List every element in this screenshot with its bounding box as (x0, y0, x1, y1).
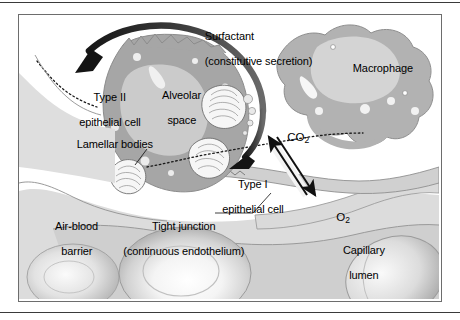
macrophage-vacuole (387, 97, 395, 105)
label-o2: O2 (317, 199, 350, 235)
bottom-divider-rule (0, 312, 460, 313)
top-divider-rule (0, 2, 460, 3)
label-surfactant-line2: (constitutive secretion) (205, 55, 313, 67)
lamellar-body (110, 160, 146, 194)
label-macrophage: Macrophage (329, 49, 419, 87)
figure-page: Surfactant (constitutive secretion) Macr… (0, 0, 460, 320)
macrophage-vacuole (411, 107, 419, 115)
label-type1-line1: Type I (238, 178, 267, 190)
label-air-blood-barrier: Air-blood barrier (25, 207, 111, 270)
label-co2: CO2 (268, 119, 309, 155)
macrophage-vacuole (360, 104, 370, 114)
label-air-blood-line1: Air-blood (55, 220, 98, 232)
label-tight-junction-line1: Tight junction (152, 220, 216, 232)
label-o2-text: O (336, 211, 345, 223)
label-tight-junction: Tight junction (continuous endothelium) (101, 207, 249, 270)
label-lamellar-bodies-text: Lamellar bodies (77, 138, 153, 150)
diagram-frame: Surfactant (constitutive secretion) Macr… (18, 14, 442, 302)
label-co2-text: CO (287, 131, 304, 143)
secretory-vesicle (243, 131, 248, 136)
label-surfactant-line1: Surfactant (205, 30, 254, 42)
secretory-vesicle (244, 95, 253, 104)
label-lamellar-bodies: Lamellar bodies (59, 125, 153, 163)
secretory-vesicle (247, 120, 253, 126)
label-capillary-line1: Capillary (343, 244, 385, 256)
label-tight-junction-line2: (continuous endothelium) (123, 245, 244, 257)
label-type2-line1: Type II (94, 91, 126, 103)
label-macrophage-text: Macrophage (353, 62, 413, 74)
label-surfactant: Surfactant (constitutive secretion) (187, 17, 312, 80)
cytoplasmic-vesicle (133, 53, 141, 61)
label-capillary-lumen: Capillary lumen (315, 231, 395, 294)
label-alveolar-space-line1: Alveolar (162, 89, 201, 101)
label-capillary-line2: lumen (349, 269, 378, 281)
label-alveolar-space-line2: space (167, 114, 196, 126)
label-air-blood-line2: barrier (61, 245, 92, 257)
label-co2-subscript: 2 (304, 135, 309, 145)
cytoplasmic-vesicle (168, 170, 174, 176)
surfactant-secretion-arrow-head (75, 49, 103, 73)
macrophage-vacuole (403, 91, 408, 96)
macrophage-vacuole (315, 107, 323, 115)
secretory-vesicle (248, 107, 255, 114)
label-o2-subscript: 2 (345, 215, 350, 225)
